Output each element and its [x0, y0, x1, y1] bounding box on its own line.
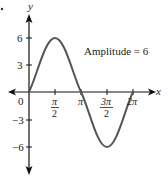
sine-graph: y x 6 3 −3 −6 0 π 2 π 3π 2 2π Amplitude … [0, 0, 168, 191]
x-tick-label-two-pi: 2π [127, 96, 138, 107]
svg-text:π: π [52, 96, 58, 107]
y-tick-label-neg6: −6 [12, 141, 24, 153]
svg-text:2: 2 [52, 108, 57, 119]
y-tick-label-3: 3 [17, 59, 23, 71]
x-tick-label-three-pi-half: 3π 2 [100, 96, 113, 119]
y-tick-label-6: 6 [17, 32, 23, 44]
y-axis-label: y [27, 0, 33, 12]
bullet-dot [1, 8, 3, 10]
origin-label: 0 [18, 95, 24, 107]
svg-text:3π: 3π [100, 96, 112, 107]
svg-text:2: 2 [104, 108, 109, 119]
x-axis-label: x [155, 85, 161, 97]
y-tick-label-neg3: −3 [12, 114, 24, 126]
x-tick-label-pi-half: π 2 [51, 96, 59, 119]
amplitude-annotation: Amplitude = 6 [84, 45, 149, 57]
